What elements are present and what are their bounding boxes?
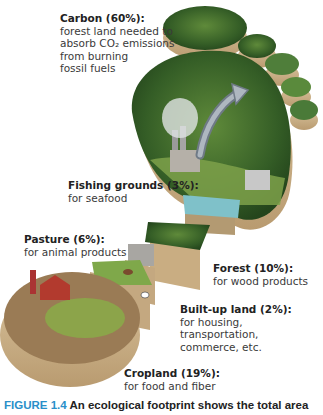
label-pasture-title: Pasture (6%): xyxy=(24,233,127,246)
label-cropland-line: for food and fiber xyxy=(124,380,220,393)
label-forest: Forest (10%): for wood products xyxy=(213,262,308,287)
label-fishing-line: for seafood xyxy=(68,192,199,205)
label-builtup-line: transportation, xyxy=(180,328,292,341)
label-builtup: Built-up land (2%): for housing, transpo… xyxy=(180,303,292,353)
label-pasture: Pasture (6%): for animal products xyxy=(24,233,127,258)
label-carbon-line: forest land needed to xyxy=(60,25,174,38)
figure-caption: FIGURE 1.4 An ecological footprint shows… xyxy=(4,399,308,411)
label-builtup-title: Built-up land (2%): xyxy=(180,303,292,316)
label-fishing-title: Fishing grounds (3%): xyxy=(68,179,199,192)
label-cropland-title: Cropland (19%): xyxy=(124,367,220,380)
label-fishing: Fishing grounds (3%): for seafood xyxy=(68,179,199,204)
figure-number: FIGURE 1.4 xyxy=(4,399,67,411)
label-carbon-line: fossil fuels xyxy=(60,62,174,75)
cropland-disk xyxy=(0,270,140,387)
label-carbon-line: absorb CO₂ emissions xyxy=(60,37,174,50)
label-carbon: Carbon (60%): forest land needed to abso… xyxy=(60,12,174,75)
label-builtup-line: commerce, etc. xyxy=(180,341,292,354)
label-carbon-title: Carbon (60%): xyxy=(60,12,174,25)
label-builtup-line: for housing, xyxy=(180,316,292,329)
label-pasture-line: for animal products xyxy=(24,246,127,259)
figure-caption-text: An ecological footprint shows the total … xyxy=(67,399,309,411)
label-forest-line: for wood products xyxy=(213,275,308,288)
label-carbon-line: from burning xyxy=(60,50,174,63)
label-cropland: Cropland (19%): for food and fiber xyxy=(124,367,220,392)
label-forest-title: Forest (10%): xyxy=(213,262,308,275)
